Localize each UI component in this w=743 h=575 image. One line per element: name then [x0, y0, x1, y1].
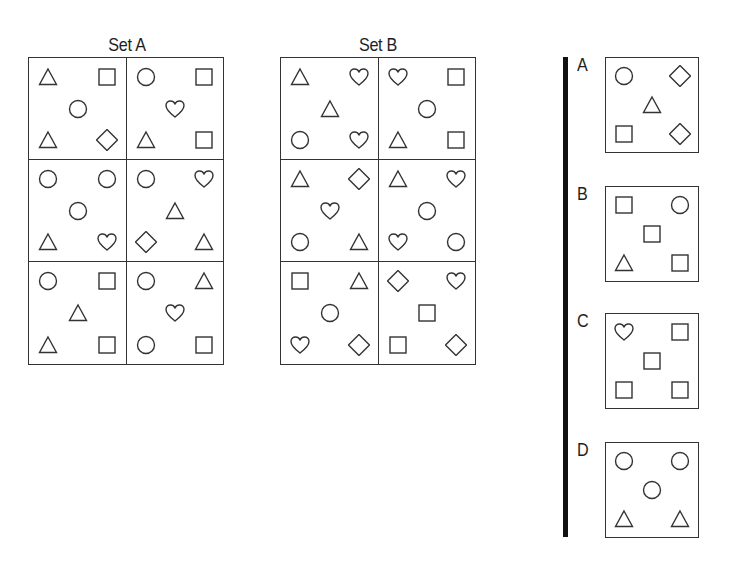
circle-icon: [289, 129, 311, 151]
square-icon: [193, 129, 215, 151]
triangle-icon: [613, 508, 635, 530]
panel-3-1: [29, 262, 126, 364]
triangle-icon: [164, 200, 186, 222]
heart-icon: [96, 231, 118, 253]
square-icon: [669, 321, 691, 343]
circle-icon: [613, 65, 635, 87]
square-icon: [613, 123, 635, 145]
square-icon: [669, 379, 691, 401]
triangle-icon: [348, 270, 370, 292]
triangle-icon: [669, 508, 691, 530]
heart-icon: [348, 129, 370, 151]
set-a-grid: [28, 57, 224, 365]
square-icon: [613, 379, 635, 401]
diamond-icon: [348, 168, 370, 190]
triangle-icon: [37, 334, 59, 356]
circle-icon: [613, 450, 635, 472]
panel-2-2: [378, 160, 475, 262]
circle-icon: [67, 98, 89, 120]
heart-icon: [445, 168, 467, 190]
diamond-icon: [669, 65, 691, 87]
square-icon: [96, 66, 118, 88]
square-icon: [193, 334, 215, 356]
circle-icon: [319, 302, 341, 324]
triangle-icon: [289, 168, 311, 190]
circle-icon: [135, 334, 157, 356]
heart-icon: [613, 321, 635, 343]
circle-icon: [669, 450, 691, 472]
circle-icon: [669, 194, 691, 216]
circle-icon: [289, 231, 311, 253]
triangle-icon: [37, 231, 59, 253]
option-d-box[interactable]: [605, 442, 699, 538]
circle-icon: [416, 98, 438, 120]
triangle-icon: [387, 129, 409, 151]
vertical-divider: [563, 57, 568, 537]
square-icon: [96, 270, 118, 292]
square-icon: [193, 66, 215, 88]
square-icon: [641, 350, 663, 372]
triangle-icon: [641, 94, 663, 116]
option-c-label: C: [577, 310, 589, 332]
heart-icon: [193, 168, 215, 190]
triangle-icon: [193, 270, 215, 292]
circle-icon: [37, 168, 59, 190]
square-icon: [289, 270, 311, 292]
option-b-box[interactable]: [605, 186, 699, 282]
square-icon: [669, 252, 691, 274]
option-a-label: A: [577, 54, 588, 76]
circle-icon: [135, 270, 157, 292]
panel-2-1: [29, 160, 126, 262]
triangle-icon: [319, 98, 341, 120]
diamond-icon: [348, 334, 370, 356]
triangle-icon: [135, 129, 157, 151]
triangle-icon: [289, 66, 311, 88]
heart-icon: [348, 66, 370, 88]
set-b-title: Set B: [327, 34, 429, 56]
circle-icon: [445, 231, 467, 253]
square-icon: [445, 66, 467, 88]
diamond-icon: [669, 123, 691, 145]
panel-2-1: [281, 160, 378, 262]
heart-icon: [387, 231, 409, 253]
panel-2-2: [126, 160, 223, 262]
diamond-icon: [135, 231, 157, 253]
square-icon: [445, 129, 467, 151]
heart-icon: [319, 200, 341, 222]
panel-1-1: [29, 58, 126, 160]
square-icon: [96, 334, 118, 356]
diamond-icon: [445, 334, 467, 356]
heart-icon: [164, 98, 186, 120]
heart-icon: [387, 66, 409, 88]
circle-icon: [135, 168, 157, 190]
triangle-icon: [348, 231, 370, 253]
option-b-label: B: [577, 183, 588, 205]
triangle-icon: [37, 129, 59, 151]
circle-icon: [641, 479, 663, 501]
circle-icon: [416, 200, 438, 222]
triangle-icon: [37, 66, 59, 88]
square-icon: [641, 223, 663, 245]
square-icon: [416, 302, 438, 324]
panel-1-2: [378, 58, 475, 160]
triangle-icon: [193, 231, 215, 253]
panel-1-1: [281, 58, 378, 160]
circle-icon: [96, 168, 118, 190]
triangle-icon: [387, 168, 409, 190]
option-d-label: D: [577, 439, 589, 461]
option-a-box[interactable]: [605, 57, 699, 153]
circle-icon: [67, 200, 89, 222]
panel-3-2: [126, 262, 223, 364]
panel-3-2: [378, 262, 475, 364]
square-icon: [387, 334, 409, 356]
heart-icon: [164, 302, 186, 324]
diamond-icon: [387, 270, 409, 292]
triangle-icon: [67, 302, 89, 324]
circle-icon: [135, 66, 157, 88]
triangle-icon: [613, 252, 635, 274]
option-c-box[interactable]: [605, 313, 699, 409]
panel-3-1: [281, 262, 378, 364]
set-a-title: Set A: [76, 34, 178, 56]
heart-icon: [445, 270, 467, 292]
square-icon: [613, 194, 635, 216]
